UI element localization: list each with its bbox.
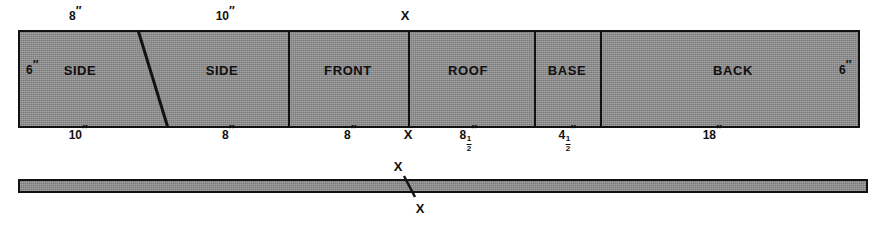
inch-mark: ″ [82, 123, 87, 137]
dimension-bottom-3: 8″ [344, 128, 356, 142]
fraction-one-half: 12 [566, 135, 570, 152]
dimension-height-right: 6″ [839, 63, 851, 77]
inch-mark: ″ [33, 58, 38, 72]
panel-divider-2 [408, 30, 410, 128]
x-marker-plan-top: X [401, 8, 410, 23]
inch-mark: ″ [570, 123, 575, 137]
dimension-bottom-4-value: 8 [460, 128, 467, 142]
panel-divider-3 [534, 30, 536, 128]
inch-mark: ″ [351, 123, 356, 137]
board-plan-view [18, 30, 860, 128]
dimension-bottom-2-value: 8 [222, 128, 229, 142]
dimension-height-left: 6″ [26, 63, 38, 77]
board-edge-view [18, 179, 868, 193]
panel-label-side-1: SIDE [64, 63, 97, 78]
fraction-denominator: 2 [566, 144, 570, 153]
inch-mark: ″ [229, 123, 234, 137]
dimension-bottom-3-value: 8 [344, 128, 351, 142]
dimension-bottom-1-value: 10 [69, 128, 82, 142]
cutting-layout-diagram: SIDE SIDE FRONT ROOF BASE BACK 6″ 6″ 8″ … [0, 0, 888, 230]
panel-divider-4 [600, 30, 602, 128]
dimension-top-1: 8″ [69, 9, 81, 23]
panel-label-side-2: SIDE [206, 63, 239, 78]
panel-label-base: BASE [548, 63, 587, 78]
inch-mark: ″ [846, 58, 851, 72]
panel-label-roof: ROOF [448, 63, 488, 78]
dimension-bottom-5: 412″ [559, 128, 576, 153]
dimension-top-1-value: 8 [69, 9, 76, 23]
dimension-bottom-2: 8″ [222, 128, 234, 142]
inch-mark: ″ [229, 4, 234, 18]
x-marker-plan-bottom: X [404, 127, 413, 142]
panel-divider-1 [288, 30, 290, 128]
x-marker-edge-bottom: X [416, 201, 425, 216]
dimension-bottom-6: 18″ [703, 128, 722, 142]
fraction-one-half: 12 [467, 135, 471, 152]
dimension-bottom-1: 10″ [69, 128, 88, 142]
x-marker-edge-top: X [394, 159, 403, 174]
dimension-bottom-5-value: 4 [559, 128, 566, 142]
dimension-top-2-value: 10 [216, 9, 229, 23]
fraction-denominator: 2 [467, 144, 471, 153]
panel-label-front: FRONT [324, 63, 372, 78]
dimension-bottom-4: 812″ [460, 128, 477, 153]
panel-label-back: BACK [713, 63, 753, 78]
inch-mark: ″ [716, 123, 721, 137]
dimension-bottom-6-value: 18 [703, 128, 716, 142]
dimension-height-right-value: 6 [839, 63, 846, 77]
dimension-height-left-value: 6 [26, 63, 33, 77]
inch-mark: ″ [471, 123, 476, 137]
dimension-top-2: 10″ [216, 9, 235, 23]
inch-mark: ″ [76, 4, 81, 18]
